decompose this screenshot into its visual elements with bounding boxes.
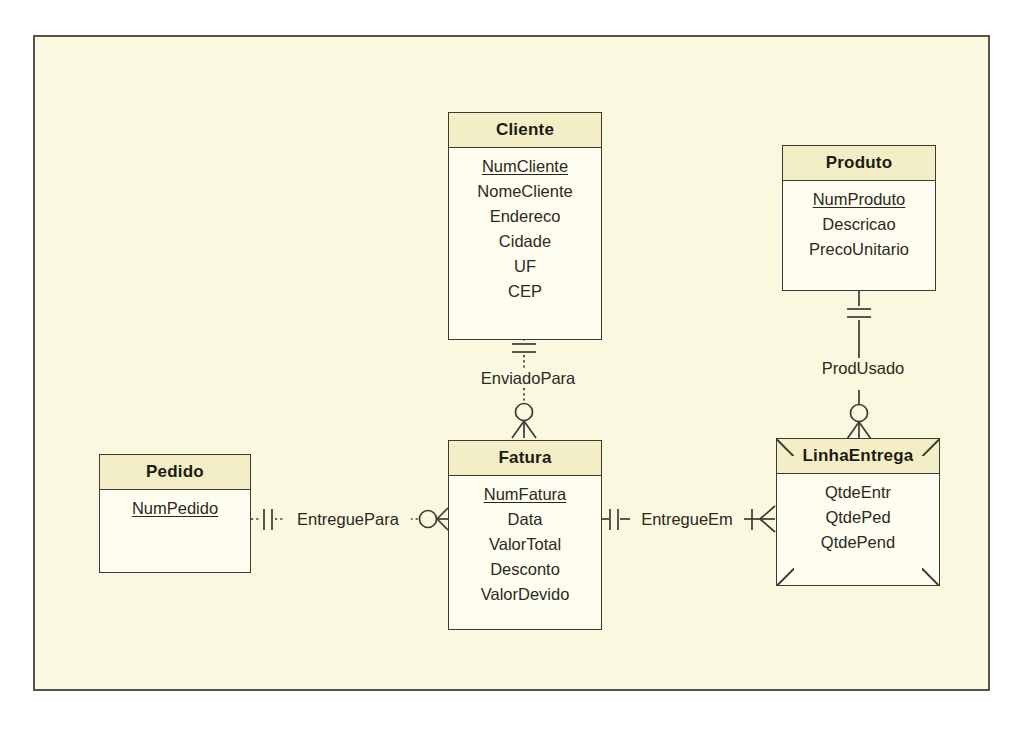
entity-cliente-attributes: NumCliente NomeCliente Endereco Cidade U… (449, 148, 601, 310)
attribute-qtdeped: QtdePed (777, 505, 939, 530)
entity-fatura-attributes: NumFatura Data ValorTotal Desconto Valor… (449, 476, 601, 613)
entity-pedido-title: Pedido (100, 455, 250, 490)
attribute-endereco: Endereco (449, 204, 601, 229)
attribute-descricao: Descricao (783, 212, 935, 237)
attribute-numproduto: NumProduto (783, 187, 935, 212)
chamfer-corner-top-left (777, 439, 794, 456)
chamfer-corner-top-right (922, 439, 939, 456)
chamfer-corner-bottom-left (777, 568, 794, 585)
attribute-numfatura: NumFatura (449, 482, 601, 507)
attribute-cep: CEP (449, 279, 601, 304)
attribute-qtdeentr: QtdeEntr (777, 480, 939, 505)
attribute-qtdepend: QtdePend (777, 530, 939, 555)
entity-linhaentrega[interactable]: LinhaEntrega QtdeEntr QtdePed QtdePend (776, 438, 940, 586)
relationship-label-enviadopara: EnviadoPara (470, 368, 586, 388)
entity-fatura-title: Fatura (449, 441, 601, 476)
entity-produto[interactable]: Produto NumProduto Descricao PrecoUnitar… (782, 145, 936, 291)
attribute-desconto: Desconto (449, 557, 601, 582)
entity-produto-title: Produto (783, 146, 935, 181)
entity-pedido-attributes: NumPedido (100, 490, 250, 527)
attribute-data: Data (449, 507, 601, 532)
attribute-uf: UF (449, 254, 601, 279)
entity-pedido[interactable]: Pedido NumPedido (99, 454, 251, 573)
entity-cliente-title: Cliente (449, 113, 601, 148)
attribute-cidade: Cidade (449, 229, 601, 254)
relationship-label-produsado: ProdUsado (808, 358, 918, 378)
attribute-nomecliente: NomeCliente (449, 179, 601, 204)
attribute-valortotal: ValorTotal (449, 532, 601, 557)
relationship-label-entregueem: EntregueEm (630, 509, 744, 529)
entity-linhaentrega-title: LinhaEntrega (777, 439, 939, 474)
attribute-valordevido: ValorDevido (449, 582, 601, 607)
entity-linhaentrega-attributes: QtdeEntr QtdePed QtdePend (777, 474, 939, 561)
attribute-numcliente: NumCliente (449, 154, 601, 179)
entity-produto-attributes: NumProduto Descricao PrecoUnitario (783, 181, 935, 268)
chamfer-corner-bottom-right (922, 568, 939, 585)
attribute-numpedido: NumPedido (100, 496, 250, 521)
entity-cliente[interactable]: Cliente NumCliente NomeCliente Endereco … (448, 112, 602, 340)
entity-fatura[interactable]: Fatura NumFatura Data ValorTotal Descont… (448, 440, 602, 630)
attribute-precounitario: PrecoUnitario (783, 237, 935, 262)
relationship-label-entreguepara: EntreguePara (285, 509, 411, 529)
